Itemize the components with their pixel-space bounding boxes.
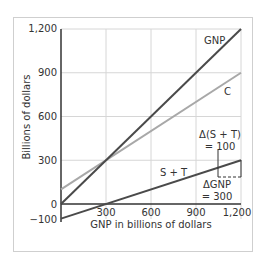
y-tick-300: 300 — [38, 155, 57, 166]
x-tick-900: 900 — [186, 207, 205, 218]
y-tick-600: 600 — [38, 111, 57, 122]
x-tick-600: 600 — [141, 207, 160, 218]
label-c: C — [224, 86, 231, 97]
y-tick-900: 900 — [38, 67, 57, 78]
y-tick-minus-100: −100 — [30, 214, 57, 225]
x-axis-label: GNP in billions of dollars — [90, 219, 211, 230]
y-tick-1200: 1,200 — [28, 23, 57, 34]
delta-st-line1: Δ(S + T) — [199, 129, 241, 140]
label-s-plus-t: S + T — [160, 167, 188, 178]
label-gnp: GNP — [204, 35, 225, 46]
chart: 1,200 900 600 300 0 −100 300 600 900 1,2… — [0, 0, 266, 260]
delta-gnp-line1: ΔGNP — [203, 179, 231, 190]
y-tick-0: 0 — [51, 199, 57, 210]
x-tick-300: 300 — [96, 207, 115, 218]
delta-st-line2: = 100 — [205, 141, 236, 152]
delta-gnp-line2: = 300 — [202, 191, 233, 202]
y-axis-label: Billions of dollars — [21, 74, 32, 159]
x-tick-1200: 1,200 — [223, 207, 252, 218]
